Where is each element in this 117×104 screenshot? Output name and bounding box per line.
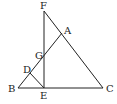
label-g: G bbox=[35, 50, 43, 61]
label-d: D bbox=[23, 64, 31, 75]
label-b: B bbox=[8, 83, 15, 94]
label-c: C bbox=[106, 83, 114, 94]
label-a: A bbox=[63, 25, 72, 36]
segment-de bbox=[30, 73, 44, 88]
label-f: F bbox=[40, 0, 47, 11]
geometry-diagram: F A G D B E C bbox=[0, 0, 117, 104]
segment-fc bbox=[44, 11, 103, 88]
label-e: E bbox=[40, 90, 47, 101]
